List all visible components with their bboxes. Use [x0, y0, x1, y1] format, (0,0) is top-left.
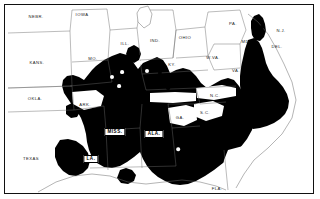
map-marker-4: [145, 69, 149, 73]
map-figure: NEBR.IOWAKANS.MO.ILL.IND.OHIOPA.N.J.MD.D…: [0, 0, 320, 199]
map-marker-8: [139, 82, 143, 86]
map-marker-9: [154, 84, 158, 88]
unshaded-inset-tennessee: [150, 92, 196, 103]
great-lakes-outline: [137, 6, 152, 28]
shaded-region-atlantic-coast: [240, 38, 289, 129]
boxed-state-label-miss: MISS.: [104, 128, 125, 136]
map-marker-10: [166, 86, 170, 90]
map-graphic: [0, 0, 320, 199]
map-marker-7: [187, 76, 191, 80]
boxed-state-label-la: LA.: [83, 155, 98, 163]
map-marker-14: [260, 25, 264, 29]
unshaded-inset-florida-peninsula: [222, 146, 256, 190]
map-marker-15: [176, 147, 180, 151]
map-marker-11: [110, 75, 114, 79]
map-marker-2: [129, 64, 133, 68]
boxed-state-label-ala: ALA.: [144, 130, 163, 138]
map-marker-13: [117, 84, 121, 88]
map-marker-12: [120, 70, 124, 74]
